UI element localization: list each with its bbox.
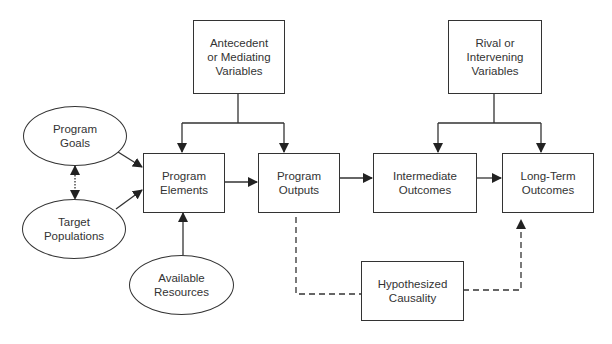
program-goals-label: Program Goals: [53, 122, 97, 150]
intermediate-outcomes-box: Intermediate Outcomes: [373, 153, 477, 213]
program-goals-ellipse: Program Goals: [23, 106, 127, 166]
edge-antecedent-split: [182, 93, 284, 123]
edge-hypothesized-to-longterm: [463, 220, 521, 290]
edge-target-to-elements: [116, 190, 142, 209]
hypothesized-causality-box: Hypothesized Causality: [361, 261, 464, 321]
target-populations-label: Target Populations: [44, 215, 104, 243]
edge-rival-split: [438, 93, 541, 123]
available-resources-label: Available Resources: [154, 271, 209, 299]
long-term-outcomes-label: Long-Term Outcomes: [521, 169, 576, 197]
target-populations-ellipse: Target Populations: [22, 199, 126, 259]
long-term-outcomes-box: Long-Term Outcomes: [502, 153, 594, 213]
rival-variables-label: Rival or Intervening Variables: [467, 36, 524, 78]
program-outputs-box: Program Outputs: [258, 153, 340, 213]
program-elements-label: Program Elements: [160, 169, 208, 197]
intermediate-outcomes-label: Intermediate Outcomes: [393, 169, 457, 197]
edge-outputs-to-hypothesized: [296, 217, 361, 294]
edge-goals-to-elements: [118, 152, 142, 167]
hypothesized-causality-label: Hypothesized Causality: [378, 277, 448, 305]
antecedent-variables-box: Antecedent or Mediating Variables: [193, 20, 285, 94]
rival-variables-box: Rival or Intervening Variables: [448, 20, 542, 94]
available-resources-ellipse: Available Resources: [129, 255, 234, 315]
antecedent-variables-label: Antecedent or Mediating Variables: [207, 36, 270, 78]
program-elements-box: Program Elements: [143, 153, 225, 213]
program-outputs-label: Program Outputs: [277, 169, 321, 197]
